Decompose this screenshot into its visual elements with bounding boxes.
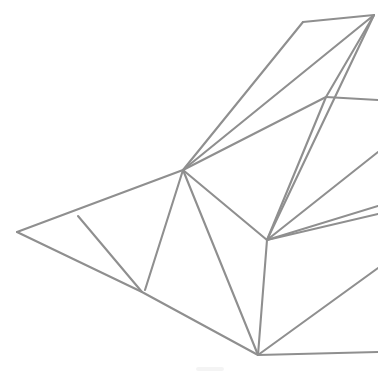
lower-branch-to-bottom [142,292,258,355]
hub-to-mid-right [183,170,267,240]
hub-to-top-corner [183,22,303,170]
wireframe-figure [0,0,378,374]
hub-to-top-right-apex [183,15,374,170]
mid-right-to-bottom [258,240,267,355]
bottom-to-right-edge-upper [258,268,378,355]
upper-branch-to-lower-branch [78,216,142,292]
drawing-canvas [0,0,378,374]
hub-to-left-tip [17,170,183,232]
hub-to-lower-branch-inner [145,170,183,290]
edge-group [17,15,378,355]
right-cross-to-mid-right [267,97,326,240]
faint-smudge [196,367,224,371]
hub-to-bottom [183,170,258,355]
top-right-apex-to-mid-right [267,15,374,240]
top-corner-to-top-right-apex [303,15,374,22]
artifact-group [196,367,224,371]
bottom-to-right-edge-lower [258,352,378,355]
left-tip-to-lower-branch [17,232,142,292]
top-right-apex-to-right-cross [326,15,374,97]
mid-right-to-right-edge-mid [267,206,378,240]
